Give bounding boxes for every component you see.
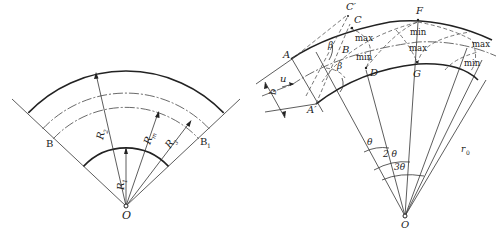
center-label-o: O <box>122 209 131 222</box>
svg-text:0: 0 <box>466 149 470 156</box>
label-2theta: 2 θ <box>382 149 398 159</box>
left-fan-diagram: O R 2 R 1 R m R 3 B B 1 <box>12 71 240 222</box>
svg-text:1: 1 <box>121 179 128 183</box>
label-min-2: min <box>410 27 427 37</box>
left-boundary-line <box>12 99 126 206</box>
center-label-o: O <box>401 219 409 230</box>
point-cprime <box>347 15 349 17</box>
label-g: G <box>413 68 421 79</box>
label-max-2: max <box>409 43 427 53</box>
label-a: A <box>282 49 290 60</box>
label-beta-bottom: β <box>336 61 342 71</box>
centerline-arc-rm <box>43 93 210 129</box>
wave-a-cprime <box>306 16 348 96</box>
point-g <box>416 61 418 63</box>
label-b-width: b <box>267 89 278 95</box>
radial-line-a <box>316 52 405 216</box>
label-d: D <box>369 67 378 78</box>
label-u: u <box>280 73 286 84</box>
label-c-prime: C′ <box>346 1 357 12</box>
label-theta: θ <box>367 137 373 147</box>
point-c <box>351 27 353 29</box>
svg-text:b: b <box>267 89 278 95</box>
label-max-3: max <box>472 39 490 49</box>
label-b: B <box>341 44 349 55</box>
width-dim-line <box>265 82 285 118</box>
outer-wall <box>291 21 492 59</box>
svg-text:1: 1 <box>207 142 211 149</box>
label-min-1: min <box>356 52 373 62</box>
center-point-o <box>124 204 128 208</box>
radial-line-r0 <box>405 60 482 216</box>
label-c: C <box>354 14 362 25</box>
arc-r3 <box>53 107 198 138</box>
center-point-o <box>403 214 407 218</box>
radius-line-rm <box>126 113 158 206</box>
label-b: B <box>46 138 53 149</box>
right-bend-diagram: A A′ B C C′ D F G O β β θ 2 θ 3θ u b r 0… <box>256 1 496 230</box>
right-boundary-line <box>126 99 240 206</box>
svg-text:m: m <box>149 132 158 140</box>
beta-arc <box>340 78 343 92</box>
radial-line-5 <box>405 80 486 216</box>
label-max-1: max <box>355 33 373 43</box>
label-3theta: 3θ <box>394 162 406 172</box>
label-rm: R m <box>141 130 158 147</box>
label-beta-top: β <box>327 40 333 50</box>
channel-edge-top <box>256 59 292 84</box>
label-f: F <box>415 5 424 16</box>
outer-arc-r2 <box>28 71 223 113</box>
three-theta-arc <box>382 175 424 180</box>
label-r2: R 2 <box>94 127 109 142</box>
label-a-prime: A′ <box>306 104 317 115</box>
label-min-3: min <box>464 58 481 68</box>
supersonic-bend-diagrams: O R 2 R 1 R m R 3 B B 1 <box>0 0 503 235</box>
label-r3: R 3 <box>162 135 180 152</box>
point-f <box>417 19 419 21</box>
radius-line-r3 <box>126 122 190 206</box>
point-d <box>365 67 367 69</box>
